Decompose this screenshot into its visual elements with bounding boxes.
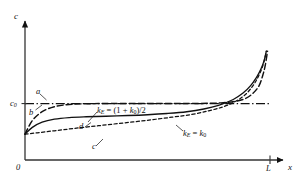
x-tick-label-L: L bbox=[266, 164, 271, 173]
curve-b-path bbox=[25, 51, 268, 134]
leader-line-lower-formula bbox=[176, 125, 183, 131]
y-axis-label: c bbox=[14, 12, 18, 21]
annotation-lower-formula: kE = k0 bbox=[183, 129, 206, 138]
curve-label-d: d bbox=[79, 122, 83, 131]
y-tick-label-c0: c0 bbox=[10, 99, 17, 108]
lower-formula-k-zero-subscript: 0 bbox=[203, 132, 206, 138]
lower-formula-equals: = bbox=[190, 128, 199, 138]
concentration-profile-figure: c x 0 L c0 a b c d kE = (1 + k0)/2 kE = … bbox=[0, 0, 299, 178]
origin-label: 0 bbox=[16, 163, 20, 172]
curve-label-b: b bbox=[29, 108, 33, 117]
plot-canvas bbox=[0, 0, 299, 178]
curve-label-a: a bbox=[36, 87, 40, 96]
annotation-upper-formula: kE = (1 + k0)/2 bbox=[97, 106, 146, 115]
leader-line-b bbox=[36, 105, 43, 110]
curve-label-c: c bbox=[92, 142, 96, 151]
upper-formula-equals: = (1 + bbox=[104, 105, 129, 115]
leader-line-c bbox=[96, 139, 103, 146]
upper-formula-tail: )/2 bbox=[136, 105, 145, 115]
y-tick-label-c0-subscript: 0 bbox=[14, 102, 17, 108]
curve-d-path bbox=[25, 51, 266, 134]
x-axis-label: x bbox=[288, 163, 292, 172]
leader-line-a bbox=[40, 94, 47, 100]
curve-c-path bbox=[25, 51, 266, 134]
